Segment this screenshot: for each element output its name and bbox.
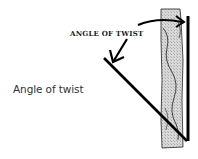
diagram-label: ANGLE OF TWIST <box>70 29 143 38</box>
figure-caption: Angle of twist <box>13 83 84 95</box>
diagram-canvas <box>0 0 198 159</box>
angle-arrow-left <box>110 39 127 62</box>
